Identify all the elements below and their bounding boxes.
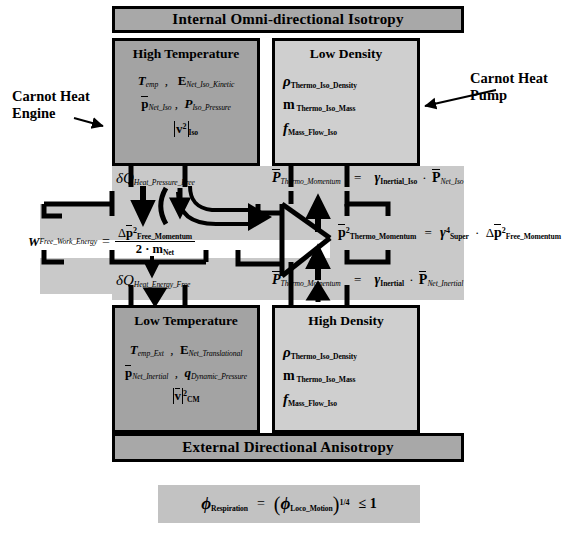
- box-low-density-title: Low Density: [310, 46, 382, 62]
- work-equals: =: [102, 234, 110, 250]
- carnot-pump-line1: Carnot Heat: [470, 70, 570, 87]
- work-lhs: W: [28, 234, 40, 250]
- respiration-equals: =: [257, 496, 265, 512]
- low-temp-row-1: Temp_Ext , ENet_Translational: [130, 343, 242, 358]
- label-carnot-heat-pump: Carnot Heat Pump: [470, 70, 570, 104]
- carnot-pump-line2: Pump: [470, 87, 570, 104]
- high-temp-row-3: v2Iso: [174, 122, 198, 137]
- equation-momentum-top: PThermo_Momentum = γInertial_Iso · PNet_…: [272, 170, 463, 186]
- high-temp-row-2: pNet_Iso , PIso_Pressure: [141, 97, 230, 112]
- banner-external-anisotropy: External Directional Anisotropy: [112, 433, 464, 462]
- low-temp-row-3: v2CM: [173, 389, 200, 404]
- banner-external-label: External Directional Anisotropy: [182, 439, 393, 456]
- high-temp-row-1: Temp , ENet_Iso_Kinetic: [138, 74, 234, 89]
- formula-respiration: ϕRespiration = (ϕLoco_Motion)1/4 ≤ 1: [158, 485, 420, 523]
- low-density-row-2: m Thermo_Iso_Mass: [283, 98, 355, 113]
- diagram-canvas: Internal Omni-directional Isotropy High …: [0, 0, 577, 534]
- work-numerator: Δp2Free_Momentum: [115, 226, 195, 241]
- box-high-density: High Density ρThermo_Iso_Density m Therm…: [272, 305, 420, 433]
- equation-momentum-mid: p2Thermo_Momentum = γ4Super · Δp2Free_Mo…: [338, 225, 561, 241]
- carnot-engine-line2: Engine: [12, 105, 107, 122]
- work-denominator: 2 · mNet: [115, 241, 195, 257]
- box-high-density-title: High Density: [308, 313, 383, 329]
- label-carnot-heat-engine: Carnot Heat Engine: [12, 88, 107, 122]
- work-fraction: Δp2Free_Momentum 2 · mNet: [115, 226, 195, 257]
- high-density-row-2: m Thermo_Iso_Mass: [283, 369, 355, 384]
- equation-momentum-bottom: PThermo_Momentum = γInertial · PNet_Iner…: [272, 272, 463, 288]
- low-density-row-3: fMass_Flow_Iso: [283, 121, 337, 137]
- box-high-temperature-title: High Temperature: [133, 46, 240, 62]
- label-heat-pressure-free: δQHeat_Pressure_Free: [116, 170, 195, 187]
- low-density-row-1: ρThermo_Iso_Density: [283, 74, 357, 90]
- label-heat-energy-free: δQHeat_Energy_Free: [116, 272, 190, 289]
- low-temp-row-2: pNet_Inertial , qDynamic_Pressure: [125, 366, 247, 381]
- high-density-row-3: fMass_Flow_Iso: [283, 392, 337, 408]
- respiration-lhs: ϕRespiration: [201, 494, 248, 514]
- box-low-temperature: Low Temperature Temp_Ext , ENet_Translat…: [112, 305, 260, 433]
- equation-work-free-energy: WFree_Work_Energy = Δp2Free_Momentum 2 ·…: [28, 226, 195, 257]
- respiration-inequality: ≤ 1: [359, 496, 377, 512]
- carnot-engine-line1: Carnot Heat: [12, 88, 107, 105]
- banner-internal-isotropy: Internal Omni-directional Isotropy: [112, 6, 464, 33]
- box-low-temperature-title: Low Temperature: [134, 313, 238, 329]
- respiration-rhs: (ϕLoco_Motion)1/4: [274, 493, 350, 516]
- banner-internal-label: Internal Omni-directional Isotropy: [172, 11, 403, 28]
- box-low-density: Low Density ρThermo_Iso_Density m Thermo…: [272, 38, 420, 166]
- box-high-temperature: High Temperature Temp , ENet_Iso_Kinetic…: [112, 38, 260, 166]
- high-density-row-1: ρThermo_Iso_Density: [283, 345, 357, 361]
